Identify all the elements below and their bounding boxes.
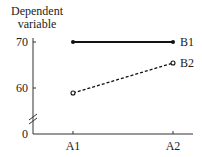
y-tick-label-60: 60: [16, 81, 28, 95]
series-b2-marker-a2: [171, 61, 175, 65]
y-tick-label-0: 0: [22, 127, 28, 141]
y-axis-label-line-2: variable: [18, 17, 57, 31]
y-axis-label-line-1: Dependent: [11, 4, 64, 18]
series-b1-marker-a1: [71, 40, 75, 44]
x-tick-label-a1: A1: [66, 139, 81, 153]
series-b2-marker-a1: [71, 91, 75, 95]
series-b1-label: B1: [180, 35, 194, 49]
x-tick-label-a2: A2: [166, 139, 181, 153]
series-b2-line: [73, 63, 173, 93]
interaction-line-chart: Dependent variable 70 60 0 A1 A2 B1 B2: [0, 0, 202, 157]
series-b1-marker-a2: [171, 40, 175, 44]
y-tick-label-70: 70: [16, 35, 28, 49]
series-b2-label: B2: [180, 56, 194, 70]
